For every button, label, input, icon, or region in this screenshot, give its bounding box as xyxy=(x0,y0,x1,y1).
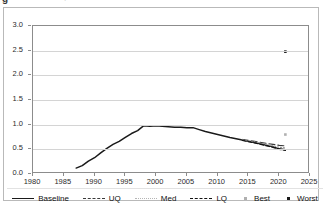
legend-item-lq[interactable]: LQ xyxy=(190,194,227,203)
x-axis: 1980198519901995200020052010201520202025 xyxy=(4,8,320,202)
x-tick-label: 1995 xyxy=(109,178,139,186)
x-tick-mark xyxy=(278,173,279,176)
legend-swatch-lq-icon xyxy=(190,194,212,203)
x-tick-label: 1980 xyxy=(17,178,47,186)
legend-swatch-uq-icon xyxy=(83,194,105,203)
legend-label: Baseline xyxy=(38,194,69,203)
chart-legend: BaselineUQMedLQBestWorst xyxy=(7,189,323,204)
x-tick-mark xyxy=(217,173,218,176)
legend-line-sample xyxy=(135,198,157,199)
x-tick-label: 2010 xyxy=(202,178,232,186)
clipped-title-dot: . xyxy=(64,0,66,3)
legend-dot-sample-icon xyxy=(287,197,290,200)
legend-swatch-med-icon xyxy=(135,194,157,203)
legend-item-med[interactable]: Med xyxy=(135,194,177,203)
legend-swatch-worst-icon xyxy=(284,194,293,203)
clipped-title-text: g xyxy=(2,0,8,4)
x-tick-mark xyxy=(32,173,33,176)
legend-label: Best xyxy=(254,194,270,203)
x-tick-mark xyxy=(94,173,95,176)
legend-swatch-best-icon xyxy=(241,194,250,203)
legend-line-sample xyxy=(190,198,212,199)
x-tick-label: 1990 xyxy=(79,178,109,186)
x-tick-mark xyxy=(186,173,187,176)
x-tick-mark xyxy=(124,173,125,176)
x-tick-label: 2025 xyxy=(294,178,323,186)
x-tick-label: 2015 xyxy=(232,178,262,186)
legend-label: Worst xyxy=(297,194,318,203)
x-tick-mark xyxy=(63,173,64,176)
legend-label: UQ xyxy=(109,194,121,203)
legend-label: LQ xyxy=(216,194,227,203)
x-tick-mark xyxy=(155,173,156,176)
x-tick-mark xyxy=(247,173,248,176)
legend-swatch-baseline-icon xyxy=(12,194,34,203)
x-tick-mark xyxy=(309,173,310,176)
x-tick-label: 1985 xyxy=(48,178,78,186)
clipped-title-artifact: g . xyxy=(0,0,323,7)
legend-item-worst[interactable]: Worst xyxy=(284,194,318,203)
chart-frame: 0.00.51.01.52.02.53.0 198019851990199520… xyxy=(3,7,319,201)
legend-item-uq[interactable]: UQ xyxy=(83,194,121,203)
x-tick-label: 2000 xyxy=(140,178,170,186)
legend-line-sample xyxy=(12,198,34,199)
legend-item-best[interactable]: Best xyxy=(241,194,270,203)
x-tick-label: 2005 xyxy=(171,178,201,186)
legend-item-baseline[interactable]: Baseline xyxy=(12,194,69,203)
x-tick-label: 2020 xyxy=(263,178,293,186)
legend-dot-sample-icon xyxy=(244,197,247,200)
legend-label: Med xyxy=(161,194,177,203)
legend-line-sample xyxy=(83,198,105,199)
chart-container: g . 0.00.51.01.52.02.53.0 19801985199019… xyxy=(0,0,323,204)
